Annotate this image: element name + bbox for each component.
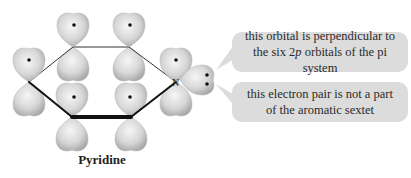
electron-dot: [72, 23, 76, 27]
molecule-caption: Pyridine: [62, 152, 142, 168]
callout-2-line-1: this electron pair is not a part: [247, 86, 393, 102]
callout-2-line-2: of the aromatic sextet: [247, 102, 393, 118]
nitrogen-label: N: [172, 77, 179, 88]
callout-perpendicular-orbital: this orbital is perpendicular to the six…: [232, 32, 408, 72]
callout-1-line-2-post: orbitals of the pi system: [302, 45, 387, 75]
callout-1-line-2-pre: the six 2: [253, 45, 295, 59]
callout-1-line-2: the six 2p orbitals of the pi system: [238, 44, 402, 76]
callout-1-line-1: this orbital is perpendicular to: [238, 28, 402, 44]
pi-electrons: [27, 23, 178, 99]
callout-lone-pair: this electron pair is not a part of the …: [232, 82, 408, 122]
electron-dot: [128, 23, 132, 27]
ring-bonds-front: [29, 82, 176, 117]
electron-dot: [27, 58, 31, 62]
ring-bonds-back: [29, 47, 176, 82]
electron-dot: [205, 73, 209, 77]
electron-dot: [128, 95, 132, 99]
electron-dot: [205, 82, 209, 86]
pyridine-diagram: N this orbital is perpendicular to the s…: [0, 0, 411, 178]
electron-dot: [174, 58, 178, 62]
electron-dot: [72, 95, 76, 99]
